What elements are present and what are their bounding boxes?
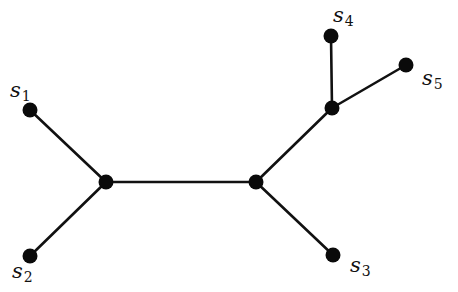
node-label-s1: s1 bbox=[10, 78, 31, 104]
internal-node-a bbox=[99, 175, 114, 190]
leaf-node-s1 bbox=[23, 103, 38, 118]
tree-edges bbox=[30, 36, 406, 256]
edge-s1-a bbox=[30, 110, 106, 182]
leaf-node-s3 bbox=[326, 248, 341, 263]
edge-b-s3 bbox=[256, 182, 333, 255]
tree-labels: s1s2s3s4s5 bbox=[10, 3, 443, 285]
node-label-s3: s3 bbox=[350, 253, 371, 279]
leaf-node-s5 bbox=[399, 58, 414, 73]
edge-c-s4 bbox=[331, 36, 332, 108]
tree-diagram: s1s2s3s4s5 bbox=[0, 0, 458, 292]
tree-nodes bbox=[23, 29, 414, 264]
node-label-s4: s4 bbox=[333, 3, 354, 29]
leaf-node-s4 bbox=[324, 29, 339, 44]
leaf-node-s2 bbox=[23, 249, 38, 264]
edge-s2-a bbox=[30, 182, 106, 256]
edge-b-c bbox=[256, 108, 332, 182]
node-label-s5: s5 bbox=[422, 66, 443, 92]
edge-c-s5 bbox=[332, 65, 406, 108]
internal-node-c bbox=[325, 101, 340, 116]
internal-node-b bbox=[249, 175, 264, 190]
